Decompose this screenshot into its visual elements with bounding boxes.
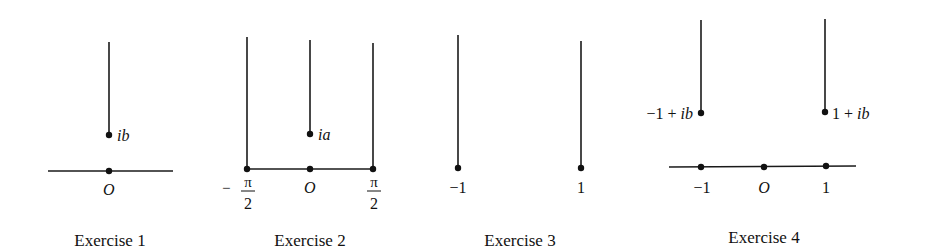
- label-right-pi: π: [370, 174, 378, 190]
- label-minus-sign: −: [222, 180, 230, 196]
- point-minus-one-plus-ib: [698, 110, 704, 116]
- point-pi-half: [370, 166, 376, 172]
- label-origin: O: [103, 181, 115, 198]
- label-one: 1: [577, 179, 585, 196]
- label-tick-minus-one: −1: [693, 179, 710, 196]
- label-right-two: 2: [370, 195, 378, 212]
- label-left-pi: π: [244, 174, 252, 190]
- exercise-4-figure: −1 + ib 1 + ib −1 O 1 Exercise 4: [647, 19, 870, 247]
- label-tick-origin: O: [758, 179, 770, 196]
- caption-exercise-1: Exercise 1: [74, 231, 145, 250]
- point-one-plus-ib: [822, 109, 828, 115]
- point-ib: [106, 132, 112, 138]
- exercise-2-figure: ia − π 2 O π 2 Exercise 2: [222, 37, 381, 250]
- point-minus-pi-half: [244, 166, 250, 172]
- label-minus-one-plus-ib: −1 + ib: [647, 105, 694, 122]
- label-origin: O: [304, 179, 316, 196]
- exercise-1-figure: ib O Exercise 1: [48, 42, 173, 250]
- point-minus-one: [455, 165, 461, 171]
- caption-exercise-2: Exercise 2: [274, 231, 345, 250]
- exercise-diagrams: ib O Exercise 1 ia − π 2 O π 2 Exercise …: [0, 0, 926, 251]
- origin-point: [761, 164, 767, 170]
- tick-minus-one: [698, 164, 704, 170]
- origin-point: [106, 168, 112, 174]
- label-ia: ia: [318, 126, 330, 143]
- label-one-plus-ib: 1 + ib: [832, 105, 869, 122]
- origin-point: [307, 166, 313, 172]
- label-tick-one: 1: [822, 179, 830, 196]
- caption-exercise-3: Exercise 3: [484, 231, 555, 250]
- tick-one: [823, 163, 829, 169]
- point-one: [578, 165, 584, 171]
- point-ia: [307, 131, 313, 137]
- label-minus-one: −1: [449, 179, 466, 196]
- exercise-3-figure: −1 1 Exercise 3: [449, 35, 585, 250]
- label-left-two: 2: [244, 195, 252, 212]
- label-ib: ib: [117, 127, 129, 144]
- caption-exercise-4: Exercise 4: [728, 228, 800, 247]
